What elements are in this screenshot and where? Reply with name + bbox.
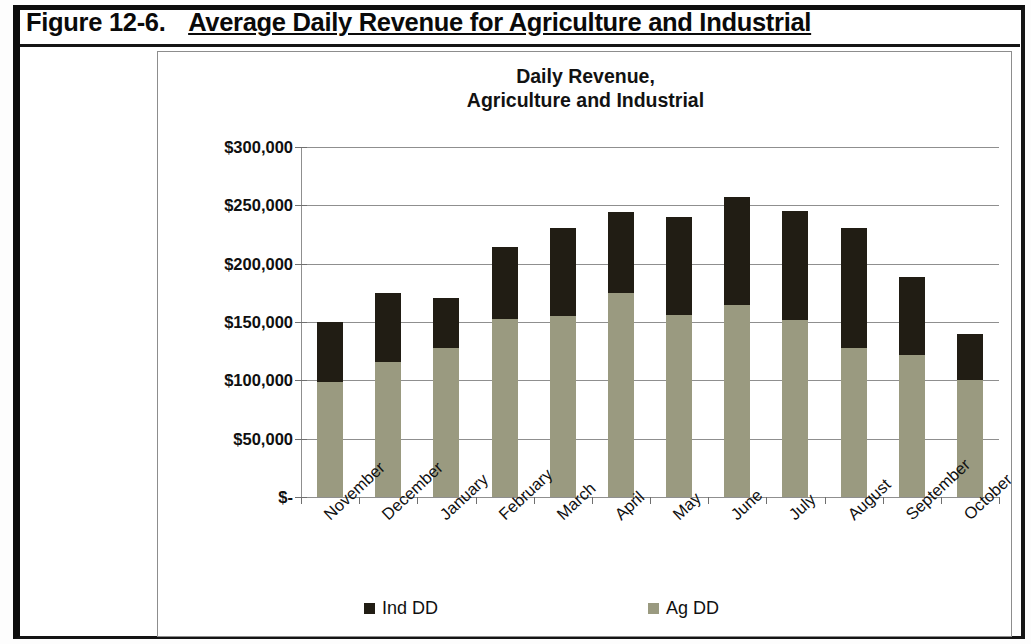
x-tick-mark	[417, 497, 418, 504]
chart-title: Daily Revenue, Agriculture and Industria…	[158, 64, 1013, 112]
legend-swatch-icon	[364, 603, 375, 614]
bar-column	[317, 322, 343, 497]
bar-column	[666, 217, 692, 497]
bar-column	[899, 277, 925, 497]
x-tick-mark	[708, 497, 709, 504]
bar-segment-ag-dd	[666, 315, 692, 497]
x-tick-mark	[476, 497, 477, 504]
x-axis-label-february: February	[495, 510, 508, 524]
legend-swatch-icon	[648, 603, 659, 614]
chart-title-line-1: Daily Revenue,	[158, 64, 1013, 88]
y-tick-label: $100,000	[173, 371, 293, 390]
chart-container: Daily Revenue, Agriculture and Industria…	[157, 51, 1012, 637]
bar-segment-ag-dd	[317, 382, 343, 498]
bar-segment-ag-dd	[782, 320, 808, 497]
x-tick-mark	[650, 497, 651, 504]
bar-column	[841, 228, 867, 497]
bar-segment-ag-dd	[841, 348, 867, 497]
bar-segment-ag-dd	[550, 316, 576, 497]
x-axis-label-july: July	[785, 510, 798, 524]
bar-segment-ind-dd	[957, 334, 983, 381]
plot-area: $-$50,000$100,000$150,000$200,000$250,00…	[301, 147, 1021, 498]
bar-series-group	[301, 147, 999, 498]
x-axis-label-march: March	[553, 510, 566, 524]
bar-column	[782, 211, 808, 497]
bar-segment-ind-dd	[666, 217, 692, 315]
bar-segment-ind-dd	[317, 322, 343, 382]
x-axis-label-january: January	[436, 510, 449, 524]
figure-page: Figure 12-6. Average Daily Revenue for A…	[0, 0, 1031, 644]
y-tick-label: $-	[173, 488, 293, 507]
bar-segment-ind-dd	[724, 197, 750, 304]
x-axis-label-november: November	[320, 510, 333, 524]
legend-label: Ind DD	[382, 598, 438, 619]
bar-segment-ag-dd	[899, 355, 925, 497]
bar-segment-ind-dd	[899, 277, 925, 355]
bar-segment-ind-dd	[841, 228, 867, 348]
x-axis-label-september: September	[902, 510, 915, 524]
bar-segment-ind-dd	[492, 247, 518, 318]
figure-number: Figure 12-6.	[26, 8, 166, 37]
x-tick-mark	[359, 497, 360, 504]
legend-item-ag-dd[interactable]: Ag DD	[648, 598, 719, 619]
caption-divider	[20, 44, 1020, 47]
x-axis-label-december: December	[378, 510, 391, 524]
figure-caption-text: Average Daily Revenue for Agriculture an…	[188, 8, 811, 37]
y-tick-label: $200,000	[173, 255, 293, 274]
x-tick-mark	[766, 497, 767, 504]
bar-segment-ag-dd	[492, 319, 518, 498]
chart-legend: Ind DDAg DD	[158, 598, 1013, 624]
bar-segment-ag-dd	[608, 293, 634, 497]
x-tick-mark	[825, 497, 826, 504]
y-tick-label: $300,000	[173, 138, 293, 157]
bar-segment-ind-dd	[375, 293, 401, 362]
y-tick-label: $250,000	[173, 196, 293, 215]
y-tick-label: $150,000	[173, 313, 293, 332]
bar-segment-ind-dd	[550, 228, 576, 317]
x-axis-label-october: October	[960, 510, 973, 524]
bar-column	[608, 212, 634, 497]
y-tick-label: $50,000	[173, 430, 293, 449]
bar-column	[492, 247, 518, 497]
legend-item-ind-dd[interactable]: Ind DD	[364, 598, 438, 619]
bar-segment-ind-dd	[433, 298, 459, 348]
bar-segment-ind-dd	[782, 211, 808, 320]
chart-title-line-2: Agriculture and Industrial	[158, 88, 1013, 112]
bar-column	[724, 197, 750, 497]
bar-segment-ag-dd	[724, 305, 750, 498]
x-axis-label-august: August	[844, 510, 857, 524]
figure-caption: Figure 12-6. Average Daily Revenue for A…	[26, 8, 1016, 42]
x-axis-label-april: April	[611, 510, 624, 524]
legend-label: Ag DD	[666, 598, 719, 619]
bar-column	[550, 228, 576, 497]
x-axis-label-june: June	[727, 510, 740, 524]
x-tick-mark	[301, 497, 302, 504]
x-axis-label-may: May	[669, 510, 682, 524]
bar-segment-ind-dd	[608, 212, 634, 293]
